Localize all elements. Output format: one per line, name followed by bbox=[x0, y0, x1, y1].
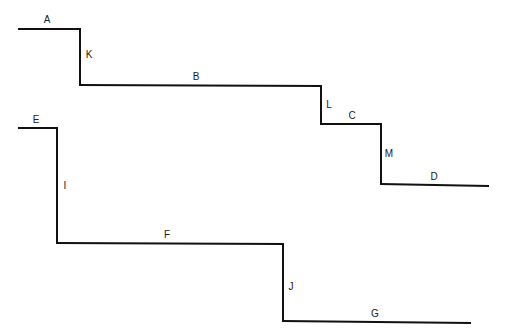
segment-label-e: E bbox=[33, 114, 40, 125]
segment-d bbox=[381, 184, 488, 186]
segment-label-b: B bbox=[193, 71, 200, 82]
segment-label-j: J bbox=[289, 281, 294, 292]
segment-label-k: K bbox=[86, 49, 93, 60]
segment-b bbox=[80, 85, 321, 86]
segment-label-d: D bbox=[430, 171, 437, 182]
segment-label-f: F bbox=[164, 229, 170, 240]
segment-f bbox=[57, 243, 283, 244]
segment-label-c: C bbox=[348, 110, 355, 121]
segment-label-l: L bbox=[326, 99, 332, 110]
upper-profile: AKBLCMD bbox=[19, 14, 488, 186]
segment-label-g: G bbox=[371, 308, 379, 319]
segment-label-m: M bbox=[385, 148, 393, 159]
segment-label-i: I bbox=[64, 180, 67, 191]
stepped-profile-diagram: AKBLCMD EIFJG bbox=[0, 0, 509, 328]
segment-g bbox=[283, 321, 470, 323]
segment-label-a: A bbox=[44, 14, 51, 25]
lower-profile: EIFJG bbox=[19, 114, 470, 323]
